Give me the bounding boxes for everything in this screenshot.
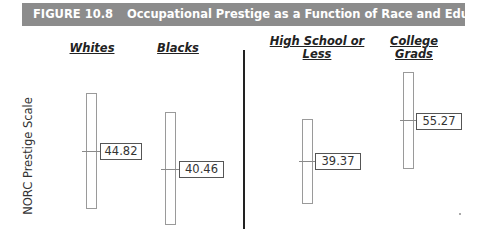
value-label-high-school: 39.37 <box>315 153 361 170</box>
category-label-college: College Grads <box>378 35 450 61</box>
mean-tick-high-school <box>299 161 316 162</box>
stray-mark <box>459 213 461 215</box>
value-label-college: 55.27 <box>416 113 462 130</box>
value-label-blacks: 40.46 <box>179 161 224 178</box>
category-label-whites: Whites <box>64 42 120 55</box>
mean-tick-college <box>400 120 417 121</box>
mean-tick-whites <box>82 151 100 152</box>
value-label-whites: 44.82 <box>100 143 142 160</box>
panel-divider <box>243 50 245 229</box>
category-label-high-school-line2: Less <box>262 48 372 61</box>
category-label-high-school: High School or Less <box>262 35 372 61</box>
figure-number: FIGURE 10.8 <box>33 7 113 21</box>
y-axis-label: NORC Prestige Scale <box>21 97 35 215</box>
figure-title: Occupational Prestige as a Function of R… <box>127 7 483 21</box>
mean-tick-blacks <box>161 169 179 170</box>
category-label-blacks: Blacks <box>150 42 206 55</box>
figure-header: FIGURE 10.8Occupational Prestige as a Fu… <box>22 3 465 26</box>
category-label-college-line2: Grads <box>378 48 450 61</box>
